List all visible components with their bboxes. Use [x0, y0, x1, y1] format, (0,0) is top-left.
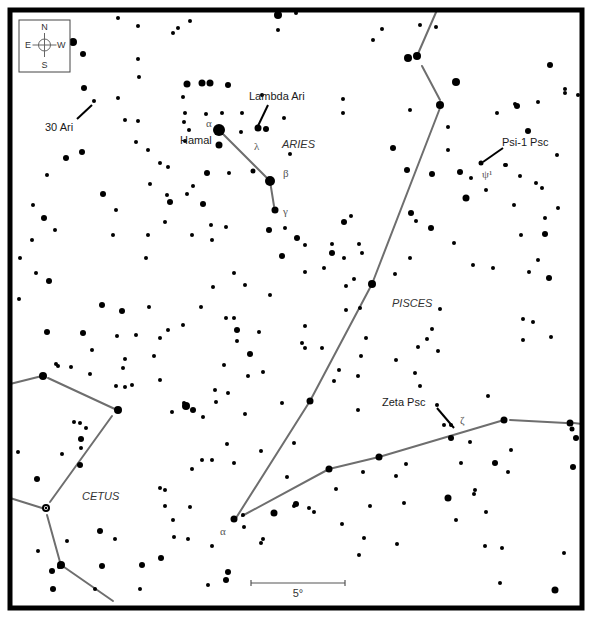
- star: [191, 184, 195, 188]
- star: [549, 335, 553, 339]
- star: [519, 233, 523, 237]
- star: [34, 476, 40, 482]
- star: [81, 85, 87, 91]
- star: [246, 374, 250, 378]
- star: [31, 203, 35, 207]
- star: [498, 581, 502, 585]
- star: [292, 441, 296, 445]
- star: [413, 371, 417, 375]
- star: [468, 440, 472, 444]
- star: [344, 308, 348, 312]
- compass: NSEW: [19, 20, 70, 72]
- star: [146, 148, 150, 152]
- star: [240, 111, 244, 115]
- star: [436, 101, 444, 109]
- star: [486, 394, 490, 398]
- star: [361, 470, 365, 474]
- star: [418, 23, 422, 27]
- star: [77, 462, 83, 468]
- star: [536, 258, 540, 262]
- star: [34, 271, 38, 275]
- star: [491, 266, 495, 270]
- star: [285, 475, 289, 479]
- star: [446, 148, 450, 152]
- star: [330, 242, 334, 246]
- star: [134, 333, 138, 337]
- star: [357, 553, 361, 557]
- star: [556, 206, 560, 210]
- star: [79, 446, 83, 450]
- star: [79, 149, 85, 155]
- star: [148, 182, 152, 186]
- star: [402, 501, 406, 505]
- star: [457, 169, 463, 175]
- star: [114, 384, 118, 388]
- star: [158, 336, 162, 340]
- star: [170, 410, 174, 414]
- star: [448, 435, 454, 441]
- star: [356, 374, 360, 378]
- star: [501, 417, 508, 424]
- star: [204, 112, 208, 116]
- star: [200, 458, 204, 462]
- star: [459, 461, 463, 465]
- star: [232, 271, 236, 275]
- star: [44, 329, 50, 335]
- star: [428, 225, 434, 231]
- star: [56, 364, 60, 368]
- star: [552, 587, 559, 594]
- star: [146, 233, 150, 237]
- star: [39, 372, 47, 380]
- star: [213, 124, 225, 136]
- star: [100, 191, 106, 197]
- star: [434, 25, 438, 29]
- star: [144, 256, 148, 260]
- star: [50, 586, 56, 592]
- star: [84, 426, 88, 430]
- greek-letter-label: ψ¹: [482, 168, 492, 180]
- star: [113, 537, 117, 541]
- star: [46, 278, 52, 284]
- star: [368, 504, 372, 508]
- star: [227, 171, 231, 175]
- star: [171, 31, 175, 35]
- star: [216, 142, 223, 149]
- star: [114, 208, 118, 212]
- star: [183, 111, 187, 115]
- constellation-label: PISCES: [392, 297, 433, 309]
- star: [171, 518, 175, 522]
- star: [390, 145, 396, 151]
- star: [80, 51, 86, 57]
- star: [166, 165, 170, 169]
- star: [204, 170, 210, 176]
- star: [45, 173, 49, 177]
- star: [243, 412, 247, 416]
- star: [452, 241, 456, 245]
- star: [479, 161, 484, 166]
- constellation-line: [48, 378, 117, 410]
- star: [521, 317, 525, 321]
- star: [272, 207, 279, 214]
- constellation-line: [417, 10, 437, 56]
- label-pointer: [77, 105, 92, 119]
- star: [231, 516, 238, 523]
- star: [463, 195, 470, 202]
- star: [226, 391, 230, 395]
- star: [139, 562, 145, 568]
- star: [469, 176, 473, 180]
- star: [123, 385, 127, 389]
- scale-label: 5°: [293, 587, 304, 599]
- star: [163, 488, 167, 492]
- compass-e: E: [25, 40, 31, 50]
- star: [137, 75, 141, 79]
- star: [182, 401, 186, 405]
- star: [186, 537, 190, 541]
- star: [504, 163, 508, 167]
- star: [53, 228, 57, 232]
- star: [512, 203, 516, 207]
- constellation-label: ARIES: [281, 138, 316, 150]
- star: [540, 186, 544, 190]
- star: [266, 227, 272, 233]
- greek-letter-label: λ: [254, 140, 260, 152]
- star: [430, 327, 434, 331]
